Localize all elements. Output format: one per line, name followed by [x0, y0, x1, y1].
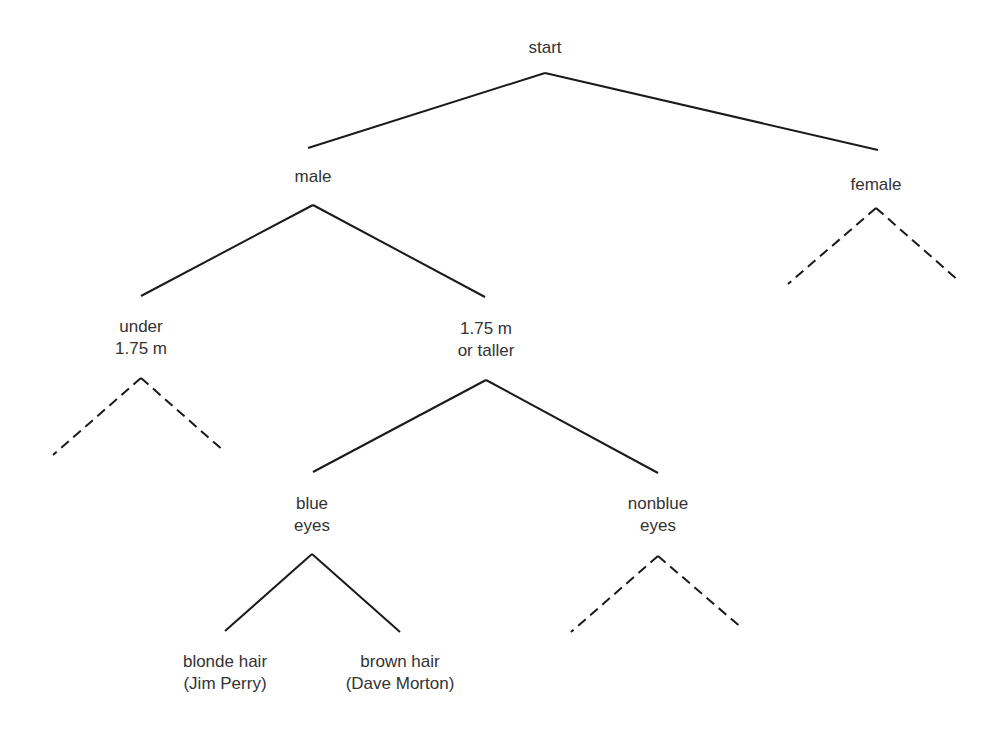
node-under-1-75m: under 1.75 m — [115, 316, 167, 360]
edge-male-left — [141, 205, 313, 296]
edge-blue-left — [225, 554, 312, 631]
node-nonblue-line-1: nonblue — [628, 493, 689, 515]
node-start: start — [528, 37, 561, 59]
edge-taller-right — [486, 380, 658, 473]
node-start-line-1: start — [528, 37, 561, 59]
node-1-75m-or-taller: 1.75 m or taller — [458, 318, 515, 362]
node-taller-line-1: 1.75 m — [458, 318, 515, 340]
edge-start-left — [308, 73, 545, 148]
edge-under-left — [53, 378, 141, 455]
node-blue-line-1: blue — [294, 493, 330, 515]
edge-taller-left — [313, 380, 486, 472]
node-under-line-1: under — [115, 316, 167, 338]
node-under-line-2: 1.75 m — [115, 338, 167, 360]
node-nonblue-eyes: nonblue eyes — [628, 493, 689, 537]
edge-blue-right — [312, 554, 400, 632]
node-male-line-1: male — [295, 166, 332, 188]
node-male: male — [295, 166, 332, 188]
edge-under-right — [141, 378, 225, 452]
node-blonde-hair: blonde hair (Jim Perry) — [183, 651, 267, 695]
edge-female-left — [788, 208, 876, 284]
node-brown-hair: brown hair (Dave Morton) — [346, 651, 455, 695]
node-blue-eyes: blue eyes — [294, 493, 330, 537]
edge-female-right — [876, 208, 959, 281]
edge-nonblue-left — [571, 556, 658, 632]
node-brown-line-2: (Dave Morton) — [346, 673, 455, 695]
edge-male-right — [313, 205, 485, 297]
node-nonblue-line-2: eyes — [628, 515, 689, 537]
node-blonde-line-2: (Jim Perry) — [183, 673, 267, 695]
node-female: female — [850, 174, 901, 196]
edge-nonblue-right — [658, 556, 743, 629]
node-brown-line-1: brown hair — [346, 651, 455, 673]
node-female-line-1: female — [850, 174, 901, 196]
node-blue-line-2: eyes — [294, 515, 330, 537]
node-blonde-line-1: blonde hair — [183, 651, 267, 673]
node-taller-line-2: or taller — [458, 340, 515, 362]
tree-edges — [0, 0, 1008, 740]
edge-start-right — [545, 73, 878, 150]
